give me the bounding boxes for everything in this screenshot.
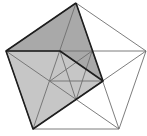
pentagon-diagram [0,0,147,136]
